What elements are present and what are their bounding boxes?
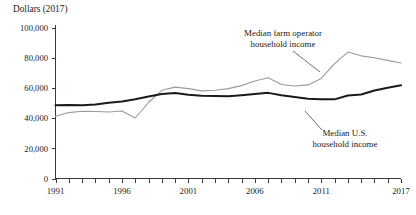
annotation-leader-line: [293, 51, 320, 72]
x-axis-tick-label: 2006: [246, 186, 264, 196]
y-axis-tick-marks: [52, 29, 56, 180]
income-line-chart: Dollars (2017) 020,00040,00060,00080,000…: [0, 0, 416, 215]
y-axis-tick-label: 20,000: [24, 144, 48, 154]
y-axis-tick-label: 0: [44, 174, 48, 184]
x-axis-tick-label: 1996: [113, 186, 131, 196]
y-axis-tick-label: 60,000: [24, 83, 48, 93]
annotation-leader-line: [305, 111, 322, 130]
chart-container: Dollars (2017) 020,00040,00060,00080,000…: [0, 0, 416, 215]
annotation-label-line1: Median U.S.: [322, 128, 367, 138]
x-axis-tick-label: 2011: [313, 186, 330, 196]
series-line-farm-operator-income: [56, 52, 402, 118]
y-axis-title: Dollars (2017): [13, 4, 67, 15]
y-axis-tick-label: 100,000: [20, 23, 48, 33]
data-series-group: [56, 52, 402, 118]
annotations-group: Median farm operatorhousehold incomeMedi…: [244, 28, 377, 149]
y-axis-tick-labels: 020,00040,00060,00080,000100,000: [20, 23, 48, 184]
us-household-annotation: Median U.S.household income: [305, 111, 377, 149]
x-axis-tick-label: 2001: [180, 186, 198, 196]
farm-operator-annotation: Median farm operatorhousehold income: [244, 28, 322, 72]
x-axis-tick-label: 1991: [47, 186, 65, 196]
y-axis-tick-label: 40,000: [24, 113, 48, 123]
annotation-label-line2: household income: [313, 139, 378, 149]
annotation-label-line1: Median farm operator: [244, 28, 322, 38]
x-axis-tick-label: 2017: [392, 186, 410, 196]
annotation-label-line2: household income: [251, 39, 316, 49]
x-axis-tick-marks: [57, 179, 402, 184]
y-axis-tick-label: 80,000: [24, 53, 48, 63]
x-axis-tick-labels: 199119962001200620112017: [47, 186, 411, 196]
